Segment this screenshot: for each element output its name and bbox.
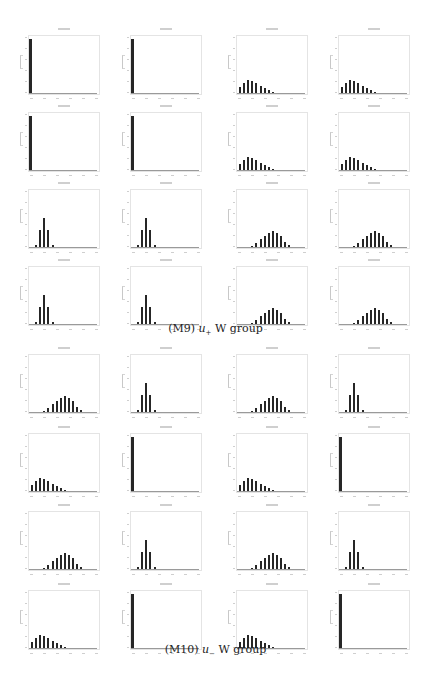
y-axis-label <box>122 55 125 69</box>
y-tick <box>335 592 337 593</box>
x-tick <box>353 175 356 176</box>
y-tick <box>127 524 129 525</box>
subplot-narrow <box>28 266 100 326</box>
y-tick <box>233 213 235 214</box>
y-axis-label <box>330 286 333 300</box>
subplot-title <box>58 583 70 585</box>
bar-series <box>29 269 97 325</box>
y-axis-label <box>20 286 23 300</box>
y-tick <box>335 235 337 236</box>
y-tick <box>127 435 129 436</box>
x-tick <box>158 175 161 176</box>
x-axis-baseline <box>131 491 199 492</box>
bar-series <box>131 38 199 94</box>
subplot-title <box>368 504 380 506</box>
y-tick <box>25 356 27 357</box>
x-tick <box>56 574 59 575</box>
subplot-title <box>160 105 172 107</box>
x-tick <box>184 98 187 99</box>
subplot-title <box>58 347 70 349</box>
bar <box>247 80 249 94</box>
y-tick <box>335 268 337 269</box>
x-tick <box>197 496 200 497</box>
y-tick <box>127 125 129 126</box>
x-tick <box>340 496 343 497</box>
x-tick <box>158 417 161 418</box>
subplot-title <box>266 347 278 349</box>
y-tick <box>25 535 27 536</box>
x-tick <box>56 496 59 497</box>
x-axis-baseline <box>237 491 305 492</box>
bar-series <box>237 357 305 413</box>
x-tick <box>158 496 161 497</box>
bar-series <box>29 514 97 570</box>
y-tick <box>127 568 129 569</box>
x-tick <box>405 574 408 575</box>
y-tick <box>233 81 235 82</box>
x-axis-baseline <box>29 491 97 492</box>
x-tick <box>303 574 306 575</box>
y-tick <box>25 48 27 49</box>
x-tick <box>405 98 408 99</box>
y-tick <box>233 202 235 203</box>
bar-series <box>339 269 407 325</box>
subplot-title <box>266 105 278 107</box>
y-tick <box>335 81 337 82</box>
bar <box>149 230 151 248</box>
x-tick <box>379 417 382 418</box>
subplot-narrow <box>130 354 202 414</box>
x-tick <box>145 252 148 253</box>
y-axis-label <box>330 374 333 388</box>
x-tick <box>353 496 356 497</box>
bar-series <box>339 115 407 171</box>
y-axis-label <box>330 610 333 624</box>
bar <box>357 552 359 570</box>
subplot-right <box>338 35 410 95</box>
y-axis-label <box>330 453 333 467</box>
caption-variable: u <box>199 322 206 335</box>
y-tick <box>233 268 235 269</box>
subplot-title <box>58 426 70 428</box>
x-tick <box>264 175 267 176</box>
x-tick <box>392 496 395 497</box>
x-axis-baseline <box>29 93 97 94</box>
y-tick <box>233 169 235 170</box>
subplot-narrow <box>130 511 202 571</box>
x-tick <box>392 417 395 418</box>
x-tick <box>392 252 395 253</box>
x-tick <box>82 417 85 418</box>
x-tick <box>82 98 85 99</box>
bar-series <box>131 514 199 570</box>
y-tick <box>127 202 129 203</box>
bar <box>247 157 249 171</box>
x-tick <box>238 574 241 575</box>
bar <box>141 552 143 570</box>
subplot-title <box>160 28 172 30</box>
bar <box>64 396 66 413</box>
bar <box>131 437 134 492</box>
x-tick <box>145 98 148 99</box>
y-axis-label <box>122 610 125 624</box>
x-tick <box>197 98 200 99</box>
subplot-title <box>266 182 278 184</box>
bar-series <box>131 115 199 171</box>
x-tick <box>264 98 267 99</box>
y-tick <box>335 246 337 247</box>
y-tick <box>127 169 129 170</box>
y-tick <box>127 268 129 269</box>
x-tick <box>197 252 200 253</box>
y-tick <box>127 114 129 115</box>
x-axis-baseline <box>339 412 407 413</box>
x-tick <box>238 417 241 418</box>
subplot-center <box>338 189 410 249</box>
subplot-title <box>58 259 70 261</box>
y-axis-label <box>20 55 23 69</box>
x-tick <box>238 98 241 99</box>
x-tick <box>95 496 98 497</box>
caption-text: W group <box>215 322 263 335</box>
x-tick <box>158 574 161 575</box>
y-axis-label <box>20 132 23 146</box>
subplot-spike <box>28 35 100 95</box>
x-tick <box>95 98 98 99</box>
y-tick <box>233 625 235 626</box>
